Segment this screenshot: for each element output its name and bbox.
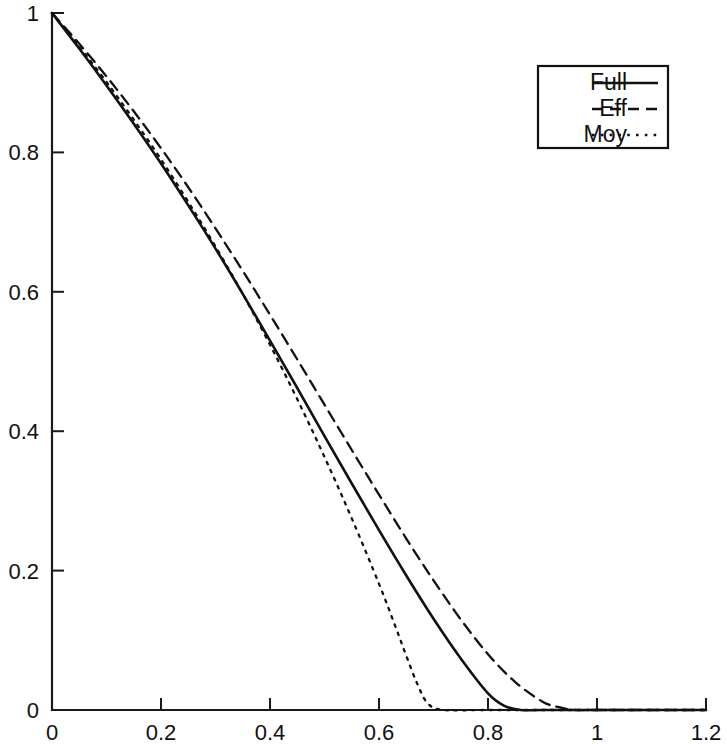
x-tick-label: 1 [591, 720, 603, 744]
y-axis-ticks: 00.20.40.60.81 [8, 1, 64, 723]
x-tick-label: 0.8 [473, 720, 504, 744]
y-tick-label: 0.4 [8, 419, 39, 444]
line-chart: 00.20.40.60.811.2 00.20.40.60.81 FullEff… [0, 0, 727, 744]
y-tick-label: 1 [27, 1, 39, 26]
x-tick-label: 0.6 [364, 720, 395, 744]
x-tick-label: 1.2 [691, 720, 722, 744]
x-tick-label: 0.4 [255, 720, 286, 744]
chart-container: 00.20.40.60.811.2 00.20.40.60.81 FullEff… [0, 0, 727, 744]
legend: FullEffMoy [538, 66, 668, 148]
y-tick-label: 0.2 [8, 559, 39, 584]
x-tick-label: 0.2 [146, 720, 177, 744]
y-tick-label: 0.8 [8, 140, 39, 165]
y-tick-label: 0.6 [8, 280, 39, 305]
x-tick-label: 0 [46, 720, 58, 744]
y-tick-label: 0 [27, 698, 39, 723]
x-axis-ticks: 00.20.40.60.811.2 [46, 698, 721, 744]
